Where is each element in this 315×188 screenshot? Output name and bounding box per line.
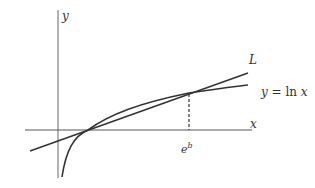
tangent-label: L xyxy=(248,53,257,67)
tangent-line xyxy=(30,73,248,151)
ln-curve xyxy=(62,85,248,177)
y-axis-label: y xyxy=(61,9,69,23)
point-label: eb xyxy=(181,141,193,156)
x-axis-label: x xyxy=(250,117,257,131)
tangent-line-diagram: y x L y = ln x eb xyxy=(0,0,315,188)
curve-label: y = ln x xyxy=(260,85,308,99)
